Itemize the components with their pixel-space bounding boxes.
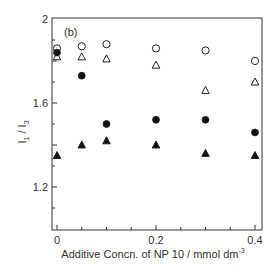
- open-triangle-marker: [103, 55, 111, 62]
- open-triangle-marker: [152, 61, 160, 68]
- filled-circle-marker: [54, 49, 61, 56]
- y-tick-label: 2: [42, 13, 48, 25]
- y-axis-label: I1 / I3: [16, 120, 30, 143]
- y-tick-label: 1.6: [33, 97, 48, 109]
- open-circle-marker: [103, 41, 110, 48]
- x-tick-label: 0: [54, 234, 60, 246]
- open-circle-marker: [251, 57, 258, 64]
- filled-triangle-marker: [152, 141, 160, 148]
- scatter-chart: 1.21.62 00.20.4 (b) I1 / I3 Additive Con…: [0, 0, 275, 275]
- filled-circle-marker: [78, 72, 85, 79]
- open-circle-marker: [202, 47, 209, 54]
- open-triangle-marker: [78, 53, 86, 60]
- filled-triangle-marker: [53, 152, 61, 159]
- filled-triangle-marker: [251, 152, 259, 159]
- filled-triangle-marker: [103, 137, 111, 144]
- filled-circle-marker: [153, 116, 160, 123]
- open-circle-marker: [78, 43, 85, 50]
- x-tick-label: 0.2: [148, 234, 163, 246]
- open-circle-marker: [152, 45, 159, 52]
- filled-triangle-marker: [78, 141, 86, 148]
- y-tick-label: 1.2: [33, 181, 48, 193]
- panel-label: (b): [64, 26, 77, 38]
- filled-circle-marker: [252, 129, 259, 136]
- y-axis: 1.21.62: [33, 13, 57, 208]
- filled-circle-marker: [202, 116, 209, 123]
- data-points: [53, 41, 259, 159]
- filled-triangle-marker: [202, 149, 210, 156]
- x-axis: 00.20.4: [54, 225, 263, 246]
- open-triangle-marker: [251, 78, 259, 85]
- x-tick-label: 0.4: [247, 234, 262, 246]
- open-triangle-marker: [202, 86, 210, 93]
- filled-circle-marker: [103, 121, 110, 128]
- x-axis-label: Additive Concn. of NP 10 / mmol dm-3: [61, 247, 244, 260]
